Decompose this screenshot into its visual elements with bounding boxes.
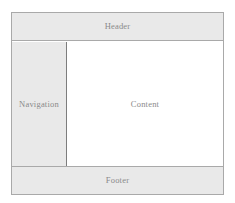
content-label: Content — [131, 100, 159, 109]
header-label: Header — [105, 22, 131, 31]
footer-region: Footer — [12, 166, 223, 194]
navigation-region: Navigation — [12, 42, 67, 166]
navigation-label: Navigation — [19, 100, 59, 109]
header-region: Header — [12, 13, 223, 41]
content-region: Content — [67, 42, 223, 166]
middle-row: Navigation Content — [12, 42, 223, 166]
layout-wireframe: Header Navigation Content Footer — [11, 12, 224, 195]
footer-label: Footer — [106, 176, 129, 185]
